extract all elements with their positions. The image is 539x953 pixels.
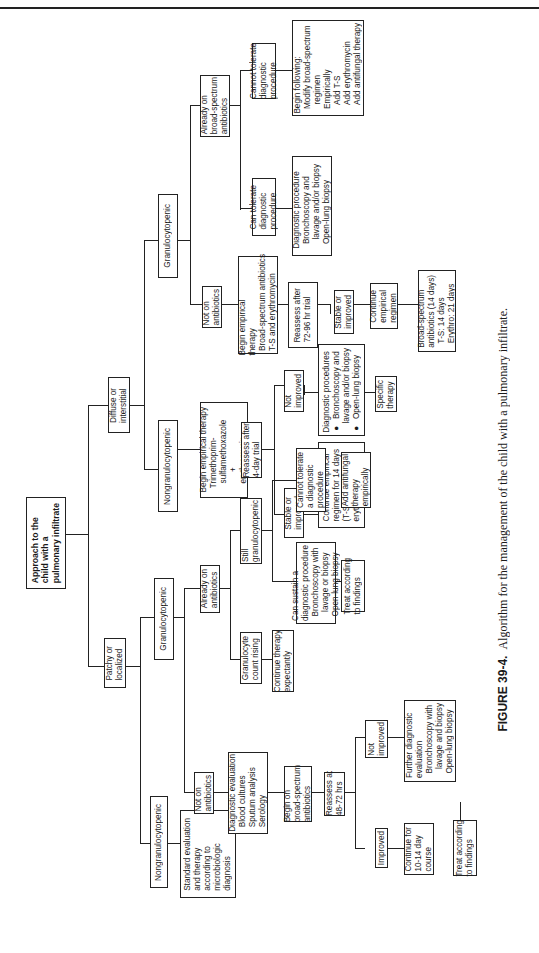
node-diffuse-g-begin-following: Begin following: Modify broad-spectrum r… (292, 20, 364, 116)
node-patchy-further-evaluation: Further diagnostic evaluation Bronchosco… (404, 700, 456, 782)
figure-label: FIGURE 39-4. (496, 656, 510, 732)
node-patchy-cannot-tolerate: Cannot tolerate a diagnostic procedure (296, 448, 326, 512)
node-patchy-not-on-antibiotics: Not on antibiotics (194, 772, 214, 814)
node-patchy-can-sustain: Can sustain a diagnostic procedure Bronc… (296, 542, 336, 624)
node-patchy-treat-according-findings-1: Treat according to findings (341, 560, 365, 612)
node-diffuse-ng-not-improved: Not improved (284, 370, 304, 412)
node-patchy-not-improved: Not improved (365, 720, 388, 758)
node-patchy-granulocytopenic: Granulocytopenic (154, 578, 174, 660)
node-diffuse-g-begin-empirical: Begin empirical therapy Broad-spectrum a… (238, 256, 278, 354)
page-header-rule (0, 7, 539, 9)
node-diffuse-g-cannot-tolerate: Cannot tolerate diagnostic procedure (252, 43, 276, 99)
node-patchy-reassess-48-72: Reassess at 48-72 hrs (324, 772, 345, 816)
node-diffuse-interstitial: Diffuse or interstitial (108, 377, 130, 433)
node-diffuse-g-can-tolerate: Can tolerate diagnostic procedure (252, 178, 276, 236)
node-patchy-nongranulocytopenic: Nongranulocytopenic (150, 796, 168, 888)
node-patchy-begin-broad-spectrum: Begin on broad-spectrum antibiotics (284, 766, 312, 822)
node-diffuse-g-reassess: Reassess after 72-96 hr trial (288, 282, 318, 348)
node-patchy-still-granulocytopenic: Still granulocytopenic (240, 498, 262, 564)
node-diffuse-g-broad-spectrum-14-days: Broad-spectrum antibiotics (14 days) T-S… (418, 270, 456, 352)
node-diffuse-ng-specific-therapy: Specific therapy (375, 376, 397, 412)
node-patchy-diagnostic-evaluation: Diagnostic evaluation Blood cultures Spu… (228, 752, 268, 834)
node-diffuse-g-not-on-antibiotics: Not on antibiotics (202, 286, 222, 328)
node-patchy-already-on-antibiotics: Already on antibiotics (200, 565, 220, 613)
node-diffuse-g-diagnostic-procedure: Diagnostic procedure Bronchoscopy and la… (292, 156, 332, 256)
node-diffuse-g-stable: Stable or improved (334, 290, 354, 334)
node-patchy-improved: Improved (375, 828, 388, 868)
node-diffuse-g-already-on-antibiotics: Already on broad-spectrum antibiotics (200, 75, 230, 137)
node-patchy-localized: Patchy or localized (104, 638, 126, 688)
node-patchy-continue-10-14-day: Continue for 10-14 day course (404, 823, 434, 875)
node-patchy-continue-expectantly: Continue therapy expectantly (272, 630, 294, 692)
node-patchy-granulocyte-count-rising: Granulocyte count rising (240, 632, 262, 684)
node-diffuse-granulocytopenic: Granulocytopenic (158, 194, 178, 278)
figure-caption: FIGURE 39-4. Algorithm for the managemen… (496, 290, 511, 750)
figure-caption-text: Algorithm for the management of the chil… (496, 308, 510, 650)
node-diffuse-ng-diagnostic-procedures: Diagnostic procedures ● Bronchoscopy and… (318, 344, 365, 436)
node-patchy-add-antifungal: Add antifungal therapy empirically (341, 452, 371, 508)
node-root: Approach to the child with a pulmonary i… (26, 497, 66, 589)
node-diffuse-g-continue-regimen: Continue empirical regimen (370, 283, 398, 329)
node-diffuse-ng-reassess: Reassess after 4-day trial (241, 422, 262, 478)
node-patchy-treat-according-findings-2: Treat according to findings (453, 820, 477, 876)
node-diffuse-nongranulocytopenic: Nongranulocytopenic (158, 420, 178, 512)
